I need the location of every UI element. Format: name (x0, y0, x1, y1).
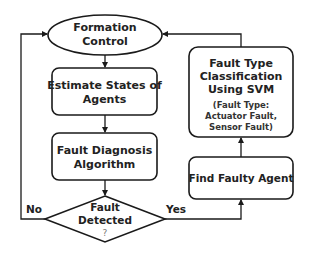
node-formation-control: Formation Control (48, 15, 162, 55)
edge-label-no: No (26, 203, 42, 215)
fault-diagnosis-line2: Algorithm (74, 158, 135, 171)
fault-detected-line1: Fault (90, 201, 120, 213)
fault-detected-line2: Detected (78, 214, 132, 226)
classification-line2: Classification (200, 70, 283, 83)
edge-classification-to-formation (163, 34, 241, 47)
flowchart: Formation Control Estimate States of Age… (0, 0, 309, 254)
classification-line1: Fault Type (209, 57, 273, 70)
formation-control-line1: Formation (73, 21, 136, 34)
classification-line3: Using SVM (208, 83, 274, 96)
node-find-faulty-agent: Find Faulty Agent (189, 157, 294, 199)
classification-sub-line2: Actuator Fault, (205, 111, 277, 121)
formation-control-line2: Control (82, 35, 127, 48)
fault-detected-question-mark: ? (103, 228, 108, 238)
estimate-states-line1: Estimate States of (47, 79, 162, 92)
edge-label-yes: Yes (165, 203, 186, 215)
node-fault-detected: Fault Detected ? (45, 196, 165, 242)
estimate-states-line2: Agents (83, 93, 127, 106)
edge-no-loop (21, 34, 47, 219)
classification-sub-line1: (Fault Type: (213, 100, 270, 110)
node-fault-diagnosis: Fault Diagnosis Algorithm (52, 133, 157, 180)
node-fault-classification: Fault Type Classification Using SVM (Fau… (189, 47, 293, 137)
find-faulty-agent-label: Find Faulty Agent (189, 172, 294, 184)
node-estimate-states: Estimate States of Agents (47, 68, 162, 115)
fault-diagnosis-line1: Fault Diagnosis (57, 144, 153, 157)
classification-sub-line3: Sensor Fault) (209, 122, 273, 132)
